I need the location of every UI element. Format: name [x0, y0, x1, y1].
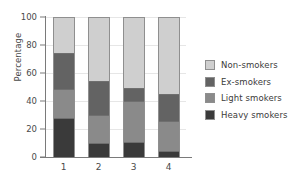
- bar-segment: [124, 142, 144, 157]
- x-tick-label: 2: [84, 162, 114, 172]
- legend-item[interactable]: Heavy smokers: [205, 110, 288, 120]
- x-axis-line: [40, 157, 192, 158]
- y-tick-label: 0: [32, 152, 37, 162]
- stacked-bar-chart: Percentage 020406080100 1234 Non-smokers…: [0, 0, 295, 187]
- legend-label: Heavy smokers: [221, 110, 288, 120]
- x-tick-label: 4: [154, 162, 184, 172]
- x-tick-label: 3: [119, 162, 149, 172]
- legend-label: Light smokers: [221, 93, 282, 103]
- y-axis-ticks: 020406080100: [0, 0, 46, 187]
- bar-segment: [89, 115, 109, 143]
- legend-label: Ex-smokers: [221, 77, 271, 87]
- bar-2: [88, 17, 110, 157]
- bar-segment: [89, 143, 109, 157]
- bar-segment: [89, 81, 109, 116]
- bar-3: [123, 17, 145, 157]
- bar-segment: [124, 18, 144, 88]
- bar-segment: [54, 53, 74, 89]
- legend-item[interactable]: Ex-smokers: [205, 77, 288, 87]
- legend-item[interactable]: Non-smokers: [205, 60, 288, 70]
- chart-legend: Non-smokersEx-smokersLight smokersHeavy …: [205, 60, 288, 120]
- bar-segment: [54, 18, 74, 53]
- legend-item[interactable]: Light smokers: [205, 93, 288, 103]
- bar-segment: [54, 89, 74, 118]
- bar-4: [158, 17, 180, 157]
- legend-label: Non-smokers: [221, 60, 278, 70]
- y-tick-label: 100: [21, 12, 37, 22]
- bar-segment: [159, 94, 179, 120]
- y-tick-label: 60: [26, 68, 37, 78]
- bar-1: [53, 17, 75, 157]
- y-tick-label: 80: [26, 40, 37, 50]
- bar-segment: [159, 151, 179, 157]
- legend-swatch-icon: [205, 110, 215, 120]
- legend-swatch-icon: [205, 93, 215, 103]
- x-tick-label: 1: [49, 162, 79, 172]
- bar-segment: [54, 118, 74, 157]
- bar-segment: [89, 18, 109, 81]
- legend-swatch-icon: [205, 60, 215, 70]
- bar-segment: [159, 18, 179, 94]
- plot-area: [46, 17, 186, 157]
- bar-segment: [124, 88, 144, 102]
- bar-segment: [124, 101, 144, 141]
- bar-segment: [159, 121, 179, 152]
- y-tick-label: 20: [26, 124, 37, 134]
- y-tick-label: 40: [26, 96, 37, 106]
- legend-swatch-icon: [205, 77, 215, 87]
